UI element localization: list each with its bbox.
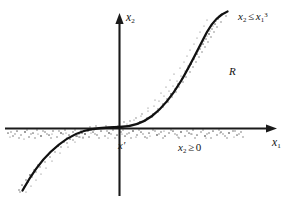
nonneg-constraint-lhs-subscript: 2	[183, 147, 186, 154]
figure-canvas	[0, 0, 294, 208]
origin-point-label: x′	[118, 141, 125, 152]
cubic-constraint-label: x2≤x13	[238, 11, 268, 24]
nonneg-constraint-relation: ≥	[187, 141, 196, 153]
x-axis-arrowhead	[266, 124, 277, 132]
nonneg-constraint-rhs: 0	[196, 141, 202, 153]
nonnegativity-constraint-label: x2≥0	[178, 142, 201, 155]
axis-boundary-stipple	[7, 129, 244, 139]
y-axis-label-subscript: 2	[131, 17, 135, 25]
y-axis-label: x2	[126, 12, 135, 25]
stipple-shading-group	[7, 13, 244, 193]
y-axis-arrowhead	[115, 13, 123, 24]
cubic-boundary-stipple	[18, 13, 227, 193]
cubic-constraint-relation: ≤	[247, 10, 256, 22]
figure-container: x2 x1 x2≤x13 R x2≥0 x′	[0, 0, 294, 208]
region-label: R	[229, 66, 236, 77]
origin-point-prime: ′	[123, 140, 126, 151]
x-axis-label-subscript: 1	[277, 142, 281, 150]
cubic-constraint-lhs-subscript: 2	[243, 16, 246, 23]
cubic-constraint-rhs-superscript: 3	[264, 11, 267, 18]
x-axis-label: x1	[272, 137, 281, 150]
